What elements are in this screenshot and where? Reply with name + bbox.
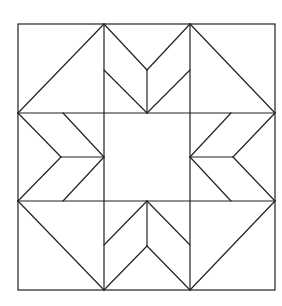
segment-middle-left xyxy=(18,157,61,201)
quilt-block-diagram xyxy=(0,0,282,306)
segment-bottom-middle xyxy=(104,246,147,290)
segment-top-middle xyxy=(104,24,147,70)
segment-bottom-middle xyxy=(104,201,147,245)
segment-middle-right xyxy=(190,157,231,201)
segment-bottom-middle xyxy=(147,246,190,290)
segment-middle-right xyxy=(190,113,231,157)
outer-square xyxy=(18,24,275,290)
segment-top-right xyxy=(190,24,275,113)
segment-middle-left xyxy=(63,113,104,157)
segment-middle-right xyxy=(233,157,275,201)
segment-middle-left xyxy=(63,157,104,201)
segment-top-left xyxy=(18,24,104,113)
segment-top-middle xyxy=(147,70,190,113)
segment-bottom-right xyxy=(190,201,275,290)
grid-lines xyxy=(18,24,275,290)
segment-top-middle xyxy=(147,24,190,70)
segment-middle-right xyxy=(233,113,275,157)
star-segments xyxy=(18,24,275,290)
segment-middle-left xyxy=(18,113,61,157)
segment-top-middle xyxy=(104,70,147,113)
segment-bottom-left xyxy=(18,201,104,290)
segment-bottom-middle xyxy=(147,201,190,245)
